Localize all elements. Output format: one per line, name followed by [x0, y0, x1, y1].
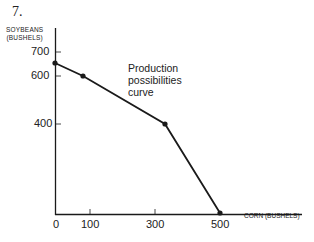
- data-point: [80, 73, 85, 78]
- data-point: [162, 121, 167, 126]
- chart-plot: [0, 0, 314, 242]
- data-point: [52, 60, 57, 65]
- data-point: [217, 210, 222, 215]
- axes: [55, 28, 302, 215]
- ppc-line: [55, 63, 220, 213]
- data-points: [52, 60, 222, 215]
